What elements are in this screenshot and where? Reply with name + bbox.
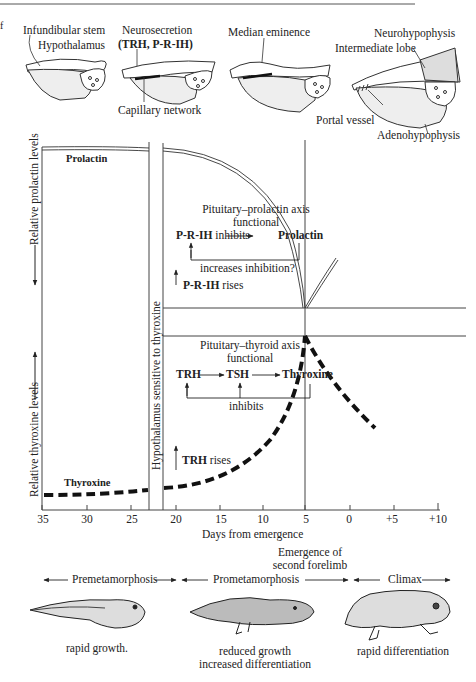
trh-rises-word: rises xyxy=(210,454,231,466)
thyroxine-curve-label: Thyroxine xyxy=(64,477,110,489)
prolactin-axis-title: Pituitary–prolactin axis functional xyxy=(186,203,326,229)
increases-inhibition-label: increases inhibition? xyxy=(200,262,295,275)
x-tick-35: 35 xyxy=(34,513,52,526)
x-tick-25: 25 xyxy=(123,513,141,526)
label-hypothalamus: Hypothalamus xyxy=(38,39,105,52)
y-axis-label-prolactin: Relative prolactin levels xyxy=(28,133,40,245)
x-tick-plus10: +10 xyxy=(424,513,452,526)
thyroid-axis-title: Pituitary–thyroid axis functional xyxy=(180,339,320,365)
x-tick-0: 0 xyxy=(340,513,358,526)
x-tick-10: 10 xyxy=(254,513,272,526)
stage-prometamorphosis: Prometamorphosis xyxy=(213,573,299,586)
label-intermediate-lobe: Intermediate lobe xyxy=(335,42,416,55)
stage-premetamorphosis: Premetamorphosis xyxy=(72,573,158,586)
desc-rapid-growth: rapid growth. xyxy=(66,642,128,655)
label-neurosecretion-hormones: (TRH, P-R-IH) xyxy=(118,38,193,51)
prir-rises-row: P-R-IH rises xyxy=(183,279,243,292)
desc-rapid-differentiation: rapid differentiation xyxy=(357,645,449,658)
tadpole-prometamorphosis xyxy=(190,598,314,634)
prir-inhibits-row: P-R-IH inhibits xyxy=(176,229,250,242)
desc-increased-differentiation: increased differentiation xyxy=(190,658,320,671)
inhibits-word: inhibits xyxy=(215,229,250,241)
prolactin-curve-label: Prolactin xyxy=(66,153,107,165)
thyroxine-target-label: Thyroxine xyxy=(282,368,333,381)
x-tick-5: 5 xyxy=(297,513,315,526)
thyroid-axis-title-line1: Pituitary–thyroid axis xyxy=(180,339,320,352)
left-edge-fragment: f xyxy=(0,20,3,32)
label-capillary-network: Capillary network xyxy=(118,104,201,117)
emergence-label-line1: Emergence of xyxy=(250,546,370,559)
thyroid-axis-title-line2: functional xyxy=(180,352,320,365)
trh-rises-row: TRH rises xyxy=(182,454,231,467)
tadpole-premetamorphosis xyxy=(30,600,145,628)
frog-climax xyxy=(345,590,450,640)
prolactin-axis-title-line1: Pituitary–prolactin axis xyxy=(186,203,326,216)
label-portal-vessel: Portal vessel xyxy=(316,114,374,127)
feedback-inhibits-label: inhibits xyxy=(229,400,264,413)
x-tick-plus5: +5 xyxy=(380,513,404,526)
trh-rises-bold: TRH xyxy=(182,454,207,466)
label-neurosecretion: Neurosecretion xyxy=(122,24,192,37)
trh-label: TRH xyxy=(176,368,201,381)
x-axis-ticks xyxy=(42,503,438,510)
pituitary-sketch-1 xyxy=(26,59,106,100)
label-adenohypophysis: Adenohypophysis xyxy=(377,129,460,142)
prolactin-target-label: Prolactin xyxy=(278,229,323,242)
tsh-label: TSH xyxy=(226,368,249,381)
emergence-label-line2: second forelimb xyxy=(250,559,370,572)
prir-rises-bold: P-R-IH xyxy=(183,279,219,291)
prir-label: P-R-IH xyxy=(176,229,212,241)
pituitary-sketch-2 xyxy=(122,61,215,104)
rises-word: rises xyxy=(222,279,243,291)
stage-climax: Climax xyxy=(388,573,422,586)
label-neurohypophysis: Neurohypophysis xyxy=(374,27,455,40)
prolactin-axis-title-line2: functional xyxy=(186,216,326,229)
x-axis-label: Days from emergence xyxy=(202,528,303,541)
band-label-hypothalamus-sensitive: Hypothalamus sensitive to thyroxine xyxy=(150,301,162,470)
x-tick-20: 20 xyxy=(167,513,185,526)
desc-reduced-growth: reduced growth xyxy=(190,645,320,658)
x-tick-30: 30 xyxy=(78,513,96,526)
label-infundibular-stem: Infundibular stem xyxy=(23,24,105,37)
desc-prometamorphosis: reduced growth increased differentiation xyxy=(190,645,320,671)
emergence-label: Emergence of second forelimb xyxy=(250,546,370,572)
y-axis-label-thyroxine: Relative thyroxine levels xyxy=(28,382,40,497)
pituitary-sketch-3 xyxy=(230,62,330,112)
x-tick-15: 15 xyxy=(212,513,230,526)
label-median-eminence: Median eminence xyxy=(228,26,310,39)
